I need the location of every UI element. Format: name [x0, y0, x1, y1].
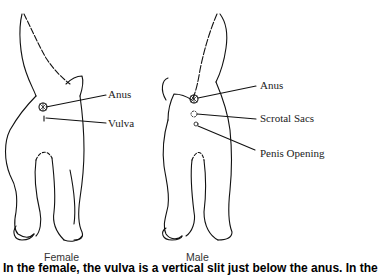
male-cat-drawing	[162, 14, 256, 240]
label-male-scrotal-sacs: Scrotal Sacs	[260, 113, 314, 124]
label-female-anus: Anus	[108, 89, 131, 100]
body-text-truncated: In the female, the vulva is a vertical s…	[3, 262, 378, 274]
label-male-penis-opening: Penis Opening	[260, 148, 324, 159]
label-male-anus: Anus	[260, 80, 283, 91]
female-cat-drawing	[6, 14, 107, 241]
label-female-vulva: Vulva	[108, 118, 134, 129]
